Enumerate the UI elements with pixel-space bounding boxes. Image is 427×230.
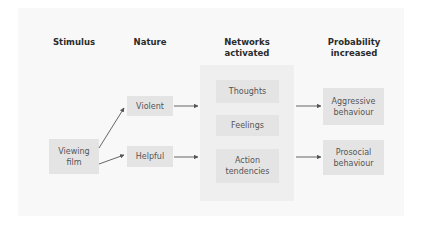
arrows-layer <box>0 0 427 230</box>
arrow-film-to-violent <box>99 108 124 148</box>
arrow-film-to-helpful <box>99 155 124 164</box>
